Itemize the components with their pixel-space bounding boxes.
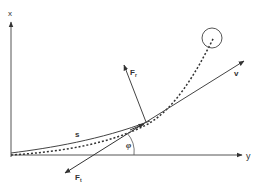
radial-force-subscript: r bbox=[135, 72, 137, 78]
target-circle bbox=[202, 28, 222, 48]
physics-diagram: x y s v Ft Fr φ bbox=[0, 0, 261, 186]
dotted-trajectory bbox=[11, 37, 214, 155]
radial-force-label: Fr bbox=[130, 68, 137, 78]
velocity-vector bbox=[143, 61, 244, 124]
tangential-force-subscript: t bbox=[80, 177, 82, 183]
tangential-force-label: Ft bbox=[75, 173, 82, 183]
y-axis-label: y bbox=[246, 151, 251, 161]
path-s-label: s bbox=[75, 130, 80, 139]
angle-label: φ bbox=[126, 140, 131, 150]
velocity-label: v bbox=[234, 69, 239, 78]
x-axis-label: x bbox=[8, 9, 12, 18]
